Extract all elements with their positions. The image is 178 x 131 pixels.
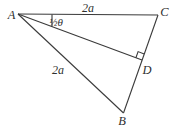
vertex-label-A: A: [7, 8, 16, 22]
triangle-diagram: ACDB2a2a½θ: [0, 0, 178, 131]
edge-AB: [18, 14, 124, 113]
vertex-label-C: C: [160, 5, 169, 19]
edge-CB: [124, 15, 159, 113]
edge-AD: [18, 14, 142, 60]
side-label-AB: 2a: [52, 63, 64, 77]
side-label-AC: 2a: [82, 1, 94, 15]
vertex-label-B: B: [118, 114, 126, 128]
vertex-label-D: D: [141, 63, 151, 77]
geometry-figure: ACDB2a2a½θ: [0, 0, 178, 131]
angle-label: ½θ: [49, 16, 63, 28]
